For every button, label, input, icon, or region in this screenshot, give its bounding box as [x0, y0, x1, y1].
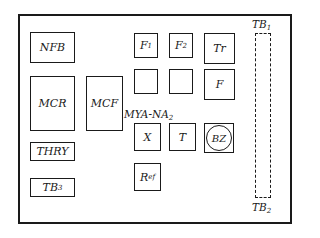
terminal-block-bottom-label: TB2 [252, 201, 271, 215]
component-sub: 3 [58, 184, 62, 192]
component-blank-2 [169, 69, 193, 94]
component-thry: THRY [30, 142, 75, 161]
terminal-block [255, 33, 271, 198]
component-mcf: MCF [86, 76, 123, 131]
component-label: NFB [40, 41, 65, 54]
buzzer-icon: BZ [206, 125, 232, 151]
component-f1: F1 [134, 33, 158, 58]
component-label: F [140, 39, 148, 52]
terminal-block-top-label: TB1 [252, 18, 271, 32]
component-label: MCR [39, 97, 67, 110]
component-label: F [216, 78, 224, 91]
component-tb3: TB3 [30, 178, 75, 197]
component-sub: ef [148, 173, 155, 181]
component-label: BZ [212, 133, 226, 144]
component-label: X [144, 131, 152, 144]
component-bz: BZ [204, 123, 234, 153]
component-nfb: NFB [30, 32, 75, 63]
component-mcr: MCR [30, 76, 75, 131]
component-label: MCF [91, 97, 118, 110]
component-t: T [169, 123, 196, 151]
component-f: F [204, 69, 235, 100]
component-x: X [134, 123, 161, 151]
component-label: THRY [36, 145, 68, 158]
component-label: TB [43, 181, 58, 194]
component-sub: 1 [148, 42, 152, 50]
component-label: R [140, 171, 148, 184]
component-sub: 2 [183, 42, 187, 50]
component-tr: Tr [204, 33, 235, 64]
component-f2: F2 [169, 33, 193, 58]
component-ref: Ref [134, 163, 161, 191]
component-blank-1 [134, 69, 158, 94]
component-label: Tr [213, 42, 226, 55]
panel-label-mya-na2: MYA-NA2 [124, 108, 173, 122]
component-label: T [179, 131, 186, 144]
component-label: F [175, 39, 183, 52]
